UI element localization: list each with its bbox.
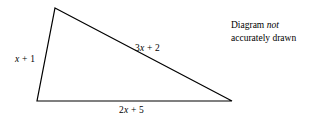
note-line-2: accurately drawn <box>231 32 296 45</box>
triangle-shape <box>0 0 316 120</box>
triangle-outline <box>37 8 232 101</box>
side-label-base: 2x + 5 <box>119 105 144 115</box>
side-label-hypotenuse-rest: + 2 <box>144 43 160 53</box>
side-label-hypotenuse: 3x + 2 <box>135 43 160 53</box>
note-line-1: Diagram not <box>231 19 296 32</box>
diagram-canvas: x + 1 3x + 2 2x + 5 Diagram not accurate… <box>0 0 316 120</box>
side-label-left: x + 1 <box>15 54 35 64</box>
side-label-left-rest: + 1 <box>19 54 35 64</box>
side-label-base-rest: + 5 <box>128 105 144 115</box>
not-to-scale-note: Diagram not accurately drawn <box>231 19 296 44</box>
note-line-1-emphasis: not <box>267 20 279 30</box>
note-line-1-prefix: Diagram <box>231 20 267 30</box>
